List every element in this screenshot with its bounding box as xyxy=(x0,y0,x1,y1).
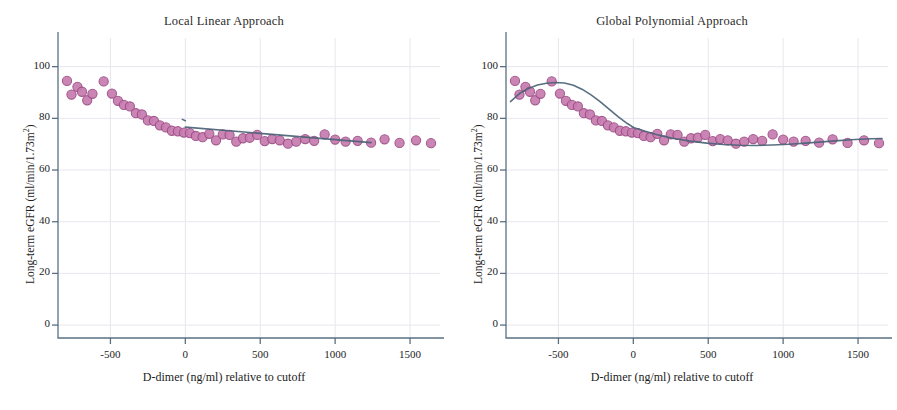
figure-container: Local Linear Approach D-dimer (ng/ml) re… xyxy=(0,0,897,410)
x-tick-label: -500 xyxy=(80,348,140,360)
y-tick-label: 40 xyxy=(16,214,50,226)
x-tick-label: 1500 xyxy=(828,348,888,360)
y-tick-label: 40 xyxy=(464,214,498,226)
chart-panel-global-polynomial: Global Polynomial Approach D-dimer (ng/m… xyxy=(448,0,896,410)
y-tick-label: 20 xyxy=(16,265,50,277)
x-axis-title: D-dimer (ng/ml) relative to cutoff xyxy=(0,370,448,385)
x-axis-title: D-dimer (ng/ml) relative to cutoff xyxy=(448,370,896,385)
y-tick-label: 60 xyxy=(16,162,50,174)
x-tick-label: 0 xyxy=(603,348,663,360)
y-tick-label: 60 xyxy=(464,162,498,174)
y-tick-label: 0 xyxy=(16,317,50,329)
x-tick-label: 0 xyxy=(155,348,215,360)
y-axis-title: Long-term eGFR (ml/min/1.73m2) xyxy=(470,124,484,284)
x-tick-label: 500 xyxy=(230,348,290,360)
y-tick-label: 100 xyxy=(464,59,498,71)
x-tick-label: 1500 xyxy=(380,348,440,360)
x-tick-label: 1000 xyxy=(305,348,365,360)
chart-panel-local-linear: Local Linear Approach D-dimer (ng/ml) re… xyxy=(0,0,448,410)
y-tick-label: 0 xyxy=(464,317,498,329)
y-tick-label: 80 xyxy=(464,110,498,122)
x-tick-label: 1000 xyxy=(753,348,813,360)
y-tick-label: 20 xyxy=(464,265,498,277)
x-tick-label: -500 xyxy=(528,348,588,360)
x-tick-label: 500 xyxy=(678,348,738,360)
y-axis-title: Long-term eGFR (ml/min/1.73m2) xyxy=(22,124,36,284)
y-tick-label: 100 xyxy=(16,59,50,71)
y-tick-label: 80 xyxy=(16,110,50,122)
